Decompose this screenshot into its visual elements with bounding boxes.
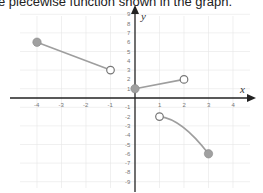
- y-tick-label: -3: [125, 123, 131, 129]
- y-tick-label: -1: [125, 104, 131, 110]
- y-axis-arrow-icon: [131, 5, 139, 14]
- y-tick-label: 2: [127, 76, 131, 82]
- x-tick-label: -4: [34, 102, 40, 108]
- y-tick-label: -7: [125, 160, 131, 166]
- y-tick-label: 4: [127, 58, 131, 64]
- open-point-marker: [156, 113, 164, 121]
- piecewise-graph: xy-4-3-2-11234-9-8-7-6-5-4-3-2-112345678…: [0, 0, 263, 193]
- closed-point-marker: [131, 85, 139, 93]
- x-tick-label: -3: [59, 102, 65, 108]
- y-tick-label: -5: [125, 142, 131, 148]
- y-tick-label: 6: [127, 39, 131, 45]
- x-tick-label: -2: [83, 102, 89, 108]
- y-tick-label: -9: [125, 179, 131, 185]
- x-tick-label: -1: [108, 102, 114, 108]
- x-axis-label: x: [239, 83, 245, 95]
- closed-point-marker: [33, 38, 41, 46]
- y-tick-label: 8: [127, 21, 131, 27]
- y-tick-label: -4: [125, 132, 131, 138]
- y-tick-label: -8: [125, 169, 131, 175]
- open-point-marker: [180, 76, 188, 84]
- open-point-marker: [107, 66, 115, 74]
- y-axis-label: y: [140, 10, 146, 22]
- closed-point-marker: [204, 150, 212, 158]
- y-tick-label: -2: [125, 114, 131, 120]
- x-axis-arrow-icon: [247, 94, 256, 102]
- graph-segment: [37, 42, 111, 70]
- y-tick-label: -6: [125, 151, 131, 157]
